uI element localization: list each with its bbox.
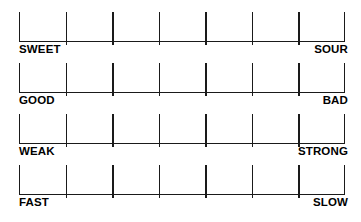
scale-tick[interactable] xyxy=(112,165,113,198)
scale-tick[interactable] xyxy=(66,12,67,45)
scale-tick[interactable] xyxy=(19,12,20,42)
scale-tick[interactable] xyxy=(112,12,113,45)
scale-tick[interactable] xyxy=(66,63,67,96)
scale-tick[interactable] xyxy=(66,165,67,198)
scale-tick[interactable] xyxy=(298,63,299,96)
scale-tick[interactable] xyxy=(159,114,160,147)
scale-tick[interactable] xyxy=(298,12,299,45)
scale-tick[interactable] xyxy=(205,114,206,147)
left-anchor-label: GOOD xyxy=(19,93,55,108)
scale-track[interactable] xyxy=(19,63,345,93)
anchor-strip: SWEET SOUR xyxy=(19,42,348,58)
scale-tick[interactable] xyxy=(66,114,67,147)
scale-track[interactable] xyxy=(19,12,345,42)
scale-tick[interactable] xyxy=(159,165,160,198)
scale-tick[interactable] xyxy=(19,63,20,93)
scale-tick[interactable] xyxy=(205,165,206,198)
scale-tick[interactable] xyxy=(252,12,253,45)
scale-tick[interactable] xyxy=(112,114,113,147)
left-anchor-label: FAST xyxy=(19,195,49,210)
scale-row: WEAK STRONG xyxy=(0,111,361,161)
right-anchor-label: STRONG xyxy=(298,144,348,159)
scale-tick[interactable] xyxy=(252,114,253,147)
scale-row: FAST SLOW xyxy=(0,162,361,212)
scale-tick[interactable] xyxy=(298,165,299,198)
anchor-strip: FAST SLOW xyxy=(19,195,348,211)
scale-tick[interactable] xyxy=(19,165,20,195)
semantic-differential-sheet: SWEET SOUR GOOD BAD xyxy=(0,0,361,222)
scale-tick[interactable] xyxy=(205,12,206,45)
scale-tick[interactable] xyxy=(344,63,345,93)
scale-tick[interactable] xyxy=(344,12,345,42)
right-anchor-label: SOUR xyxy=(314,42,348,57)
left-anchor-label: WEAK xyxy=(19,144,55,159)
scale-track[interactable] xyxy=(19,165,345,195)
right-anchor-label: SLOW xyxy=(313,195,348,210)
left-anchor-label: SWEET xyxy=(19,42,61,57)
right-anchor-label: BAD xyxy=(323,93,348,108)
scale-tick[interactable] xyxy=(252,63,253,96)
scale-tick[interactable] xyxy=(205,63,206,96)
scale-tick[interactable] xyxy=(298,114,299,147)
scale-tick[interactable] xyxy=(159,12,160,45)
scale-track[interactable] xyxy=(19,114,345,144)
scale-row: SWEET SOUR xyxy=(0,9,361,59)
scale-row: GOOD BAD xyxy=(0,60,361,110)
scale-tick[interactable] xyxy=(252,165,253,198)
anchor-strip: WEAK STRONG xyxy=(19,144,348,160)
scale-tick[interactable] xyxy=(344,165,345,195)
scale-tick[interactable] xyxy=(19,114,20,144)
anchor-strip: GOOD BAD xyxy=(19,93,348,109)
scale-tick[interactable] xyxy=(112,63,113,96)
scale-tick[interactable] xyxy=(159,63,160,96)
scale-tick[interactable] xyxy=(344,114,345,144)
